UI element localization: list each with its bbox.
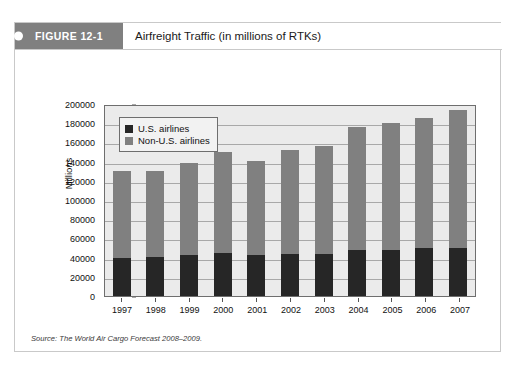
x-tick-mark	[256, 298, 257, 302]
bar-segment-us-airlines	[180, 255, 198, 296]
legend-item-non-us-airlines: Non-U.S. airlines	[125, 135, 210, 146]
bar-segment-non-us-airlines	[348, 127, 366, 250]
bar-segment-non-us-airlines	[113, 171, 131, 257]
legend-swatch-us-airlines	[125, 125, 133, 133]
y-tick-label: 40000	[70, 254, 95, 264]
legend-item-us-airlines: U.S. airlines	[125, 123, 210, 134]
y-tick-label: 120000	[65, 177, 95, 187]
x-tick-label: 2002	[281, 298, 299, 320]
x-tick-label: 2003	[315, 298, 333, 320]
source-note: Source: The World Air Cargo Forecast 200…	[31, 334, 202, 343]
x-tick-mark	[121, 298, 122, 302]
bar-segment-us-airlines	[281, 254, 299, 296]
x-tick-label: 1997	[112, 298, 130, 320]
y-tick-label: 200000	[65, 100, 95, 110]
bar-column	[281, 106, 299, 296]
bar-segment-non-us-airlines	[214, 152, 232, 253]
y-tick-label: 160000	[65, 138, 95, 148]
bar-column	[348, 106, 366, 296]
bar-column	[449, 106, 467, 296]
x-tick-mark	[324, 298, 325, 302]
chart-legend: U.S. airlines Non-U.S. airlines	[119, 117, 218, 152]
figure-title-bar: Airfreight Traffic (in millions of RTKs)	[123, 23, 502, 49]
figure-header: FIGURE 12-1 Airfreight Traffic (in milli…	[15, 23, 502, 50]
bar-segment-us-airlines	[247, 255, 265, 296]
bar-segment-non-us-airlines	[146, 171, 164, 256]
x-tick-label: 2004	[349, 298, 367, 320]
x-tick-mark	[222, 298, 223, 302]
figure-card: FIGURE 12-1 Airfreight Traffic (in milli…	[14, 22, 501, 352]
source-bar: Source: The World Air Cargo Forecast 200…	[15, 325, 502, 352]
y-axis-tick-labels: 2000001800001600001400001200001000008000…	[47, 105, 95, 297]
bar-segment-us-airlines	[348, 250, 366, 296]
bar-segment-non-us-airlines	[382, 123, 400, 250]
x-axis-tick-labels: 1997199819992000200120022003200420052006…	[104, 298, 476, 320]
bar-segment-us-airlines	[415, 248, 433, 296]
figure-number-tab: FIGURE 12-1	[15, 23, 123, 49]
legend-swatch-non-us-airlines	[125, 137, 133, 145]
bar-segment-us-airlines	[315, 254, 333, 296]
bar-column	[247, 106, 265, 296]
x-tick-label: 2005	[382, 298, 400, 320]
x-tick-mark	[155, 298, 156, 302]
bar-column	[315, 106, 333, 296]
bar-segment-non-us-airlines	[180, 163, 198, 255]
chart-area: Millions 2000001800001600001400001200001…	[15, 50, 502, 325]
bar-segment-us-airlines	[214, 253, 232, 296]
bar-column	[415, 106, 433, 296]
x-tick-label: 1998	[146, 298, 164, 320]
x-tick-mark	[425, 298, 426, 302]
legend-label-non-us-airlines: Non-U.S. airlines	[138, 135, 210, 146]
bar-segment-non-us-airlines	[449, 110, 467, 248]
bar-segment-non-us-airlines	[415, 118, 433, 248]
x-tick-label: 1999	[180, 298, 198, 320]
y-tick-label: 20000	[70, 273, 95, 283]
legend-label-us-airlines: U.S. airlines	[138, 123, 189, 134]
bar-column	[382, 106, 400, 296]
x-tick-label: 2000	[213, 298, 231, 320]
x-tick-mark	[189, 298, 190, 302]
y-tick-label: 180000	[65, 119, 95, 129]
x-tick-label: 2007	[450, 298, 468, 320]
y-tick-label: 140000	[65, 158, 95, 168]
figure-title: Airfreight Traffic (in millions of RTKs)	[135, 30, 321, 42]
plot-area: U.S. airlines Non-U.S. airlines	[104, 105, 476, 297]
y-tick-label: 60000	[70, 234, 95, 244]
y-tick-label: 0	[90, 292, 95, 302]
x-tick-mark	[290, 298, 291, 302]
figure-number-label: FIGURE 12-1	[35, 30, 103, 42]
x-tick-label: 2001	[247, 298, 265, 320]
bar-segment-non-us-airlines	[247, 161, 265, 256]
y-tick-label: 80000	[70, 215, 95, 225]
x-tick-mark	[358, 298, 359, 302]
bar-segment-us-airlines	[113, 258, 131, 296]
y-tick-label: 100000	[65, 196, 95, 206]
bar-segment-us-airlines	[382, 250, 400, 296]
bar-segment-non-us-airlines	[315, 146, 333, 254]
x-tick-mark	[391, 298, 392, 302]
x-tick-mark	[459, 298, 460, 302]
tab-notch-icon	[14, 32, 23, 41]
bar-segment-us-airlines	[449, 248, 467, 296]
bar-segment-non-us-airlines	[281, 150, 299, 254]
x-tick-label: 2006	[416, 298, 434, 320]
bar-segment-us-airlines	[146, 257, 164, 296]
